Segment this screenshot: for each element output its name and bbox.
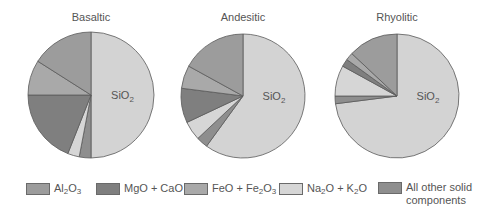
legend: Al2O3 MgO + CaO FeO + Fe2O3 Na2O + K2O A… (0, 182, 484, 219)
legend-item-mgo-cao: MgO + CaO (96, 182, 183, 195)
legend-swatch (96, 183, 120, 195)
legend-label: MgO + CaO (124, 182, 183, 195)
legend-swatch (26, 183, 50, 195)
pie-chart-andesitic: Andesitic SiO2 (163, 0, 323, 170)
pie-basaltic: SiO2 (11, 0, 171, 170)
pie-chart-basaltic: Basaltic SiO2 (11, 0, 171, 170)
legend-item-other: All other solidcomponents (378, 181, 472, 207)
legend-label: FeO + Fe2O3 (212, 182, 276, 198)
legend-label: Na2O + K2O (307, 182, 367, 198)
pie-rhyolitic: SiO2 (317, 0, 477, 170)
pie-andesitic: SiO2 (163, 0, 323, 170)
legend-label: Al2O3 (54, 182, 81, 198)
legend-swatch (279, 183, 303, 195)
legend-swatch (378, 182, 402, 194)
legend-swatch (184, 183, 208, 195)
legend-item-na2o-k2o: Na2O + K2O (279, 182, 367, 198)
legend-item-feo-fe2o3: FeO + Fe2O3 (184, 182, 276, 198)
pie-chart-rhyolitic: Rhyolitic SiO2 (317, 0, 477, 170)
legend-label: All other solidcomponents (406, 181, 472, 207)
legend-item-al2o3: Al2O3 (26, 182, 81, 198)
